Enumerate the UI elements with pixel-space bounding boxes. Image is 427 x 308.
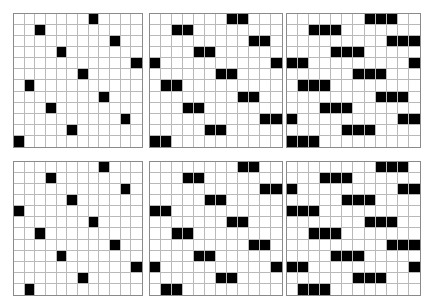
empty-cell: [67, 14, 78, 25]
empty-cell: [46, 273, 57, 284]
empty-cell: [46, 114, 57, 125]
empty-cell: [14, 36, 25, 47]
empty-cell: [365, 228, 376, 239]
empty-cell: [35, 217, 46, 228]
empty-cell: [387, 173, 398, 184]
empty-cell: [121, 36, 132, 47]
empty-cell: [35, 80, 46, 91]
empty-cell: [409, 217, 420, 228]
empty-cell: [376, 58, 387, 69]
empty-cell: [131, 92, 142, 103]
empty-cell: [67, 273, 78, 284]
empty-cell: [161, 162, 172, 173]
empty-cell: [409, 228, 420, 239]
empty-cell: [365, 284, 376, 295]
empty-cell: [387, 103, 398, 114]
empty-cell: [78, 184, 89, 195]
empty-cell: [320, 195, 331, 206]
empty-cell: [331, 58, 342, 69]
empty-cell: [331, 262, 342, 273]
empty-cell: [205, 284, 216, 295]
empty-cell: [110, 136, 121, 147]
empty-cell: [205, 228, 216, 239]
empty-cell: [309, 14, 320, 25]
filled-cell: [387, 36, 398, 47]
empty-cell: [121, 195, 132, 206]
empty-cell: [25, 47, 36, 58]
empty-cell: [99, 217, 110, 228]
empty-cell: [25, 58, 36, 69]
empty-cell: [353, 80, 364, 91]
filled-cell: [249, 92, 260, 103]
empty-cell: [161, 14, 172, 25]
empty-cell: [398, 58, 409, 69]
empty-cell: [298, 273, 309, 284]
empty-cell: [57, 69, 68, 80]
empty-cell: [331, 206, 342, 217]
empty-cell: [309, 36, 320, 47]
empty-cell: [331, 14, 342, 25]
filled-cell: [110, 240, 121, 251]
empty-cell: [260, 58, 271, 69]
empty-cell: [227, 25, 238, 36]
empty-cell: [35, 262, 46, 273]
empty-cell: [298, 36, 309, 47]
empty-cell: [78, 240, 89, 251]
empty-cell: [46, 36, 57, 47]
filled-cell: [238, 14, 249, 25]
empty-cell: [46, 162, 57, 173]
empty-cell: [89, 184, 100, 195]
empty-cell: [353, 228, 364, 239]
empty-cell: [14, 92, 25, 103]
filled-cell: [320, 103, 331, 114]
empty-cell: [342, 262, 353, 273]
empty-cell: [131, 136, 142, 147]
empty-cell: [249, 217, 260, 228]
filled-cell: [353, 251, 364, 262]
empty-cell: [46, 251, 57, 262]
empty-cell: [172, 92, 183, 103]
empty-cell: [353, 58, 364, 69]
empty-cell: [89, 240, 100, 251]
empty-cell: [227, 92, 238, 103]
empty-cell: [110, 25, 121, 36]
empty-cell: [376, 36, 387, 47]
empty-cell: [110, 14, 121, 25]
empty-cell: [287, 228, 298, 239]
empty-cell: [320, 162, 331, 173]
empty-cell: [89, 114, 100, 125]
empty-cell: [216, 251, 227, 262]
filled-cell: [67, 195, 78, 206]
filled-cell: [161, 206, 172, 217]
empty-cell: [249, 80, 260, 91]
empty-cell: [309, 240, 320, 251]
empty-cell: [227, 125, 238, 136]
filled-cell: [271, 262, 282, 273]
empty-cell: [131, 36, 142, 47]
empty-cell: [35, 103, 46, 114]
empty-cell: [131, 206, 142, 217]
empty-cell: [99, 14, 110, 25]
empty-cell: [172, 217, 183, 228]
empty-cell: [25, 136, 36, 147]
empty-cell: [25, 173, 36, 184]
empty-cell: [309, 125, 320, 136]
empty-cell: [150, 284, 161, 295]
empty-cell: [238, 240, 249, 251]
empty-cell: [194, 125, 205, 136]
empty-cell: [342, 114, 353, 125]
empty-cell: [67, 58, 78, 69]
empty-cell: [150, 92, 161, 103]
empty-cell: [25, 125, 36, 136]
empty-cell: [331, 162, 342, 173]
filled-cell: [309, 284, 320, 295]
empty-cell: [67, 47, 78, 58]
empty-cell: [78, 195, 89, 206]
filled-cell: [387, 92, 398, 103]
filled-cell: [25, 80, 36, 91]
empty-cell: [365, 184, 376, 195]
filled-cell: [216, 195, 227, 206]
filled-cell: [331, 228, 342, 239]
empty-cell: [205, 262, 216, 273]
empty-cell: [238, 206, 249, 217]
